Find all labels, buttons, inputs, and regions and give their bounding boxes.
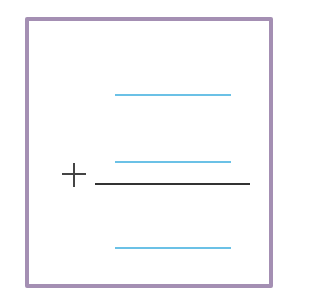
sum-blank[interactable]	[115, 247, 231, 249]
addend-1-blank[interactable]	[115, 94, 231, 96]
sum-bar	[95, 183, 250, 185]
plus-icon	[62, 163, 86, 187]
addend-2-blank[interactable]	[115, 161, 231, 163]
